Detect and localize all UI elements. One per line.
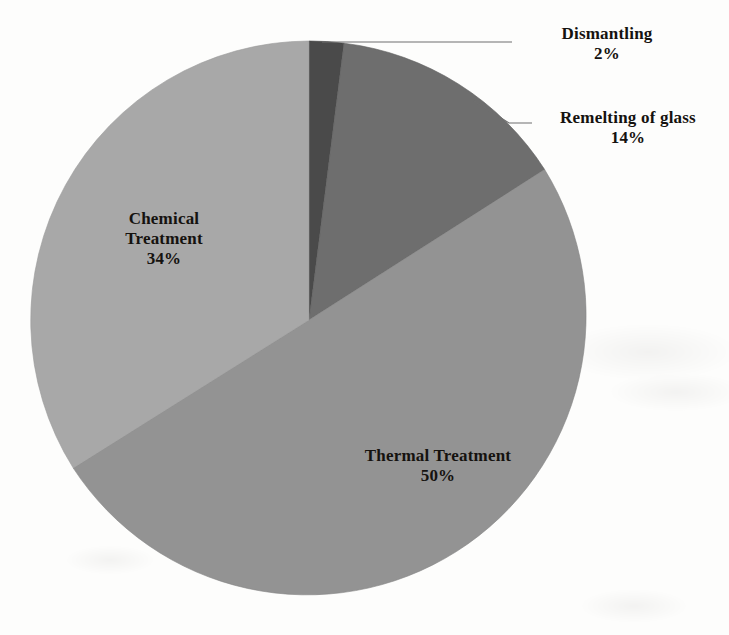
pie-label-remelting-of-glass-name: Remelting of glass	[530, 108, 726, 128]
pie-label-chemical-treatment-name-line2: Treatment	[76, 229, 252, 249]
pie-label-thermal-treatment: Thermal Treatment 50%	[330, 446, 546, 486]
pie-chart-figure	[0, 0, 729, 635]
pie-label-dismantling-name: Dismantling	[512, 24, 702, 44]
pie-label-remelting-of-glass: Remelting of glass 14%	[530, 108, 726, 148]
pie-label-thermal-treatment-value: 50%	[330, 466, 546, 486]
pie-chart-page: Dismantling 2% Remelting of glass 14% Ch…	[0, 0, 729, 635]
pie-label-chemical-treatment-value: 34%	[76, 249, 252, 269]
pie-label-remelting-of-glass-value: 14%	[530, 128, 726, 148]
pie-label-chemical-treatment: Chemical Treatment 34%	[76, 209, 252, 269]
pie-label-dismantling: Dismantling 2%	[512, 24, 702, 64]
pie-slices	[31, 41, 586, 595]
pie-label-chemical-treatment-name-line1: Chemical	[76, 209, 252, 229]
pie-label-thermal-treatment-name: Thermal Treatment	[330, 446, 546, 466]
pie-label-dismantling-value: 2%	[512, 44, 702, 64]
